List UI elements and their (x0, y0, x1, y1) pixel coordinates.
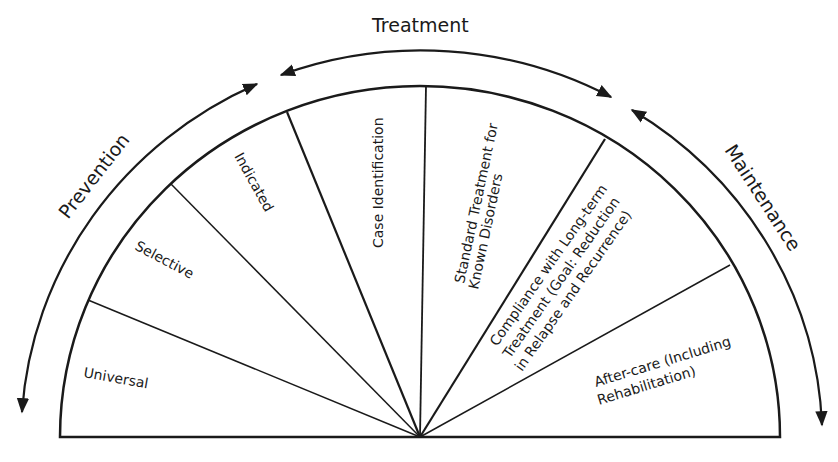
segment-label-standard-treatment: Standard Treatment for Known Disorders (451, 122, 505, 291)
segment-label-selective: Selective (133, 238, 197, 282)
phase-label-treatment: Treatment (371, 14, 469, 36)
segment-label-universal: Universal (82, 364, 149, 391)
segment-label-after-care: After-care (Including Rehabilitation) (592, 333, 733, 408)
phase-label-prevention: Prevention (54, 129, 134, 223)
segment-label-case-identification: Case Identification (370, 117, 386, 248)
spectrum-diagram: Prevention Treatment Maintenance Univers… (0, 0, 838, 462)
segment-label-indicated: Indicated (231, 150, 277, 215)
treatment-arrow (281, 50, 611, 97)
compliance-line-2: Treatment (Goal: Reduction (499, 194, 623, 361)
